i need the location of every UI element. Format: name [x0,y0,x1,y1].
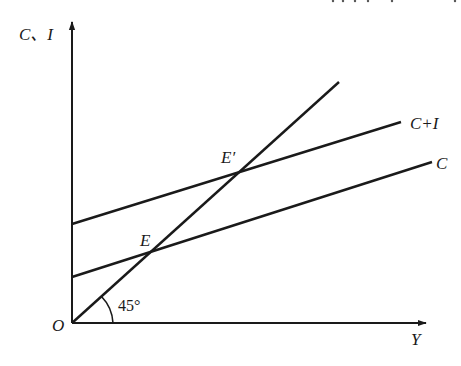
equilibrium-e-label: E [139,231,151,250]
y-axis-label: C、I [19,25,54,44]
origin-label: O [52,316,64,335]
consumption-line [72,162,432,277]
c-plus-i-line [72,122,401,224]
angle-arc [102,297,114,324]
x-axis-label: Y [411,330,422,349]
c-plus-i-label: C+I [410,114,440,133]
angle-label: 45° [118,297,140,314]
equilibrium-e-prime-label: E′ [220,148,235,167]
forty-five-degree-line [72,82,339,323]
consumption-label: C [436,154,448,173]
cropped-text-fragment [332,0,456,2]
keynesian-cross-diagram: C、I Y O C+I C E E′ 45° [0,0,461,366]
